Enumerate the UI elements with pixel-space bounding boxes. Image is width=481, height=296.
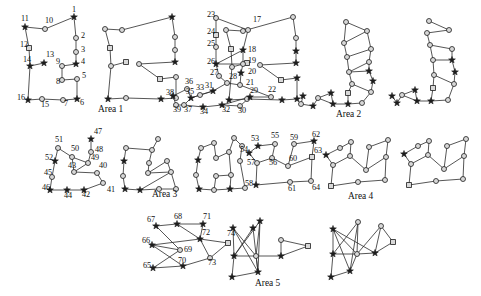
circle-node-marker[interactable]: [60, 78, 65, 83]
star-node-marker[interactable]: [347, 267, 354, 274]
circle-node-marker[interactable]: [383, 178, 388, 183]
circle-node-marker[interactable]: [461, 177, 466, 182]
circle-node-marker[interactable]: [241, 62, 246, 67]
circle-node-marker[interactable]: [447, 28, 452, 33]
circle-node-marker[interactable]: [431, 58, 436, 63]
circle-node-marker[interactable]: [316, 96, 321, 101]
star-node-marker[interactable]: [255, 268, 262, 275]
circle-node-marker[interactable]: [464, 137, 469, 142]
circle-node-marker[interactable]: [384, 155, 389, 160]
square-node-marker[interactable]: [124, 60, 129, 65]
circle-node-marker[interactable]: [199, 146, 204, 151]
star-node-marker[interactable]: [227, 185, 234, 192]
circle-node-marker[interactable]: [369, 90, 374, 95]
circle-node-marker[interactable]: [194, 173, 199, 178]
circle-node-marker[interactable]: [214, 156, 219, 161]
circle-node-marker[interactable]: [173, 48, 178, 53]
circle-node-marker[interactable]: [360, 101, 365, 106]
star-node-marker[interactable]: [41, 59, 48, 66]
circle-node-marker[interactable]: [173, 35, 178, 40]
star-node-marker[interactable]: [401, 150, 408, 157]
circle-node-marker[interactable]: [349, 140, 354, 145]
circle-node-marker[interactable]: [255, 161, 260, 166]
circle-node-marker[interactable]: [367, 60, 372, 65]
circle-node-marker[interactable]: [238, 159, 243, 164]
circle-node-marker[interactable]: [442, 167, 447, 172]
circle-node-marker[interactable]: [43, 27, 48, 32]
star-node-marker[interactable]: [253, 181, 260, 188]
circle-node-marker[interactable]: [364, 168, 369, 173]
square-node-marker[interactable]: [306, 244, 311, 249]
square-node-marker[interactable]: [229, 47, 234, 52]
circle-node-marker[interactable]: [169, 170, 174, 175]
circle-node-marker[interactable]: [103, 27, 108, 32]
star-node-marker[interactable]: [366, 67, 373, 74]
circle-node-marker[interactable]: [178, 248, 183, 253]
circle-node-marker[interactable]: [342, 41, 347, 46]
circle-node-marker[interactable]: [56, 146, 61, 151]
star-node-marker[interactable]: [294, 95, 301, 102]
star-node-marker[interactable]: [122, 185, 129, 192]
circle-node-marker[interactable]: [299, 102, 304, 107]
circle-node-marker[interactable]: [229, 173, 234, 178]
circle-node-marker[interactable]: [212, 141, 217, 146]
circle-node-marker[interactable]: [174, 75, 179, 80]
circle-node-marker[interactable]: [75, 77, 80, 82]
circle-node-marker[interactable]: [294, 36, 299, 41]
circle-node-marker[interactable]: [445, 144, 450, 149]
star-node-marker[interactable]: [279, 96, 286, 103]
star-node-marker[interactable]: [414, 97, 421, 104]
square-node-marker[interactable]: [391, 240, 396, 245]
star-node-marker[interactable]: [293, 59, 300, 66]
circle-node-marker[interactable]: [74, 36, 79, 41]
star-node-marker[interactable]: [345, 100, 352, 107]
star-node-marker[interactable]: [172, 58, 179, 65]
star-node-marker[interactable]: [328, 273, 335, 280]
circle-node-marker[interactable]: [348, 154, 353, 159]
circle-node-marker[interactable]: [416, 144, 421, 149]
circle-node-marker[interactable]: [246, 28, 251, 33]
circle-node-marker[interactable]: [121, 174, 126, 179]
circle-node-marker[interactable]: [446, 98, 451, 103]
circle-node-marker[interactable]: [462, 154, 467, 159]
circle-node-marker[interactable]: [214, 174, 219, 179]
circle-node-marker[interactable]: [356, 220, 361, 225]
square-node-marker[interactable]: [279, 78, 284, 83]
circle-node-marker[interactable]: [273, 142, 278, 147]
circle-node-marker[interactable]: [452, 82, 457, 87]
circle-node-marker[interactable]: [225, 81, 230, 86]
star-node-marker[interactable]: [196, 185, 203, 192]
circle-node-marker[interactable]: [224, 28, 229, 33]
square-node-marker[interactable]: [158, 77, 163, 82]
square-node-marker[interactable]: [431, 86, 436, 91]
circle-node-marker[interactable]: [344, 20, 349, 25]
circle-node-marker[interactable]: [120, 28, 125, 33]
square-node-marker[interactable]: [329, 184, 334, 189]
circle-node-marker[interactable]: [146, 171, 151, 176]
star-node-marker[interactable]: [310, 102, 317, 109]
square-node-marker[interactable]: [310, 155, 315, 160]
circle-node-marker[interactable]: [356, 180, 361, 185]
circle-node-marker[interactable]: [409, 162, 414, 167]
circle-node-marker[interactable]: [427, 139, 432, 144]
circle-node-marker[interactable]: [254, 254, 259, 259]
circle-node-marker[interactable]: [258, 63, 263, 68]
circle-node-marker[interactable]: [238, 83, 243, 88]
circle-node-marker[interactable]: [355, 252, 360, 257]
circle-node-marker[interactable]: [212, 188, 217, 193]
circle-node-marker[interactable]: [291, 15, 296, 20]
circle-node-marker[interactable]: [60, 64, 65, 69]
circle-node-marker[interactable]: [230, 65, 235, 70]
star-node-marker[interactable]: [137, 186, 144, 193]
circle-node-marker[interactable]: [426, 153, 431, 158]
circle-node-marker[interactable]: [427, 19, 432, 24]
circle-node-marker[interactable]: [241, 29, 246, 34]
circle-node-marker[interactable]: [350, 82, 355, 87]
star-node-marker[interactable]: [330, 100, 337, 107]
star-node-marker[interactable]: [278, 252, 285, 259]
circle-node-marker[interactable]: [269, 95, 274, 100]
circle-node-marker[interactable]: [72, 170, 77, 175]
star-node-marker[interactable]: [428, 97, 435, 104]
circle-node-marker[interactable]: [338, 146, 343, 151]
star-node-marker[interactable]: [449, 56, 456, 63]
